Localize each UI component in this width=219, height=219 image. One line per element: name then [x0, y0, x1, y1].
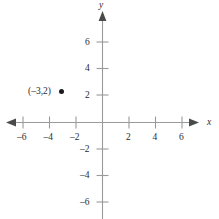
y-axis-top-arrow: [99, 11, 107, 21]
y-tick-label-6: 6: [85, 38, 90, 48]
y-tick-label--6: –6: [80, 198, 90, 208]
x-tick-label--6: –6: [17, 133, 27, 143]
x-tick-label-4: 4: [153, 133, 158, 143]
y-tick-label-2: 2: [85, 91, 90, 101]
x-axis-label: x: [207, 118, 211, 128]
y-tick-label-4: 4: [85, 64, 90, 74]
x-axis-right-arrow: [189, 119, 199, 127]
x-tick-label-6: 6: [179, 133, 184, 143]
coordinate-plane: –6 –4 –2 2 4 6 6 4 2 –2 –4 –6 x y (–3,2): [0, 0, 219, 219]
y-tick-label--2: –2: [80, 145, 90, 155]
x-tick-label-2: 2: [126, 133, 131, 143]
x-tick-label--2: –2: [70, 133, 80, 143]
plotted-point-marker: [59, 89, 64, 94]
x-tick-label--4: –4: [44, 133, 54, 143]
y-tick-label--4: –4: [80, 171, 90, 181]
axes-graphic: [0, 0, 219, 219]
y-axis-label: y: [99, 1, 103, 11]
x-axis-left-arrow: [6, 119, 16, 127]
plotted-point-label: (–3,2): [28, 87, 51, 97]
